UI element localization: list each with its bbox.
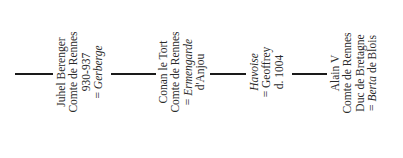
connector-line-4 [292, 73, 327, 75]
person-title: Comte de Rennes [169, 31, 181, 113]
person-name: Conan le Tort [157, 31, 169, 113]
person-conan-le-tort: Conan le Tort Comte de Rennes = Ermengar… [157, 31, 206, 113]
person-name: Havoise [248, 41, 260, 103]
person-spouse-house: d'Anjou [194, 31, 206, 113]
person-title-2: Duc de Bretagne [354, 23, 366, 123]
person-title: Comte de Rennes [341, 23, 353, 123]
person-juhel-berenger: Juhel Berenger Comte de Rennes 930-937 =… [55, 31, 104, 113]
person-name: Alain V [329, 23, 341, 123]
connector-line-2 [111, 73, 156, 75]
person-name: Juhel Berenger [55, 31, 67, 113]
person-alain-v: Alain V Comte de Rennes Duc de Bretagne … [329, 23, 378, 123]
person-spouse: = Gerberge [92, 31, 104, 113]
person-dates: d. 1004 [273, 41, 285, 103]
person-title: Comte de Rennes [67, 31, 79, 113]
person-havoise: Havoise = Geoffrey d. 1004 [248, 41, 285, 103]
person-spouse: = Berta de Blois [366, 23, 378, 123]
connector-line-3 [210, 73, 246, 75]
person-dates: 930-937 [80, 31, 92, 113]
person-spouse: = Geoffrey [260, 41, 272, 103]
connector-line-1 [15, 73, 53, 75]
person-spouse: = Ermengarde [182, 31, 194, 113]
